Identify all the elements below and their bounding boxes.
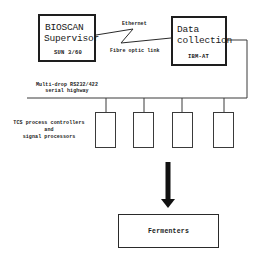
processors-label-line1: TCS process controllers — [4, 120, 94, 127]
processor-box-2 — [133, 112, 154, 148]
processor-box-1 — [95, 112, 116, 148]
processors-label: TCS process controllers and signal proce… — [4, 120, 94, 141]
network-link-line — [96, 29, 171, 43]
processor-box-4 — [213, 112, 234, 148]
data-collection-title-line1: Data — [177, 24, 199, 35]
data-collection-box: Data collection IBM-AT — [171, 16, 227, 66]
fibre-optic-label: Fibre optic link — [110, 48, 160, 54]
bioscan-subtitle: SUN 3/60 — [54, 49, 82, 56]
data-collection-title-line2: collection — [177, 35, 232, 46]
fermenters-box: Fermenters — [118, 214, 219, 248]
processor-box-3 — [172, 112, 193, 148]
processors-label-line3: signal processors — [4, 134, 94, 141]
data-collection-subtitle: IBM-AT — [188, 53, 209, 60]
fermenters-label: Fermenters — [148, 228, 189, 235]
bioscan-supervisor-box: BIOSCAN Supervisor SUN 3/60 — [38, 14, 96, 62]
highway-riser-line — [227, 40, 247, 98]
bioscan-title-line2: Supervisor — [44, 33, 99, 44]
processors-label-line2: and — [4, 127, 94, 134]
bioscan-title-line1: BIOSCAN — [45, 22, 84, 33]
ethernet-label: Ethernet — [122, 21, 147, 27]
serial-highway-label: Multi-drop RS232/422 serial highway — [22, 82, 112, 94]
system-architecture-diagram: BIOSCAN Supervisor SUN 3/60 Data collect… — [0, 0, 259, 262]
serial-highway-label-line2: serial highway — [22, 88, 112, 94]
down-arrow-icon — [161, 162, 175, 208]
